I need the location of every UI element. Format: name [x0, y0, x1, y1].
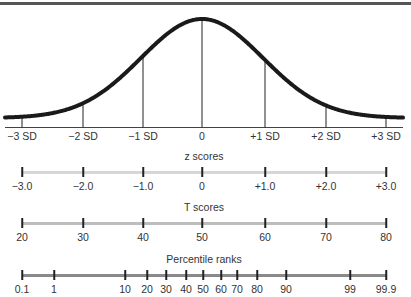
scale-tick: [124, 270, 126, 280]
scale-bar: [22, 171, 386, 174]
scale-label: 70: [320, 231, 332, 243]
scale-tick: [285, 270, 287, 280]
scale-label: −1.0: [133, 180, 154, 192]
scale-label: 60: [259, 231, 271, 243]
sd-label: +1 SD: [250, 130, 279, 142]
scale-label: 99.9: [376, 283, 396, 295]
scale-tick: [385, 218, 387, 228]
scale-title: T scores: [184, 201, 224, 213]
scale-tick: [264, 167, 266, 177]
scale-label: 0.1: [15, 283, 30, 295]
scale-label: 10: [119, 283, 131, 295]
scale-tick: [53, 270, 55, 280]
scale-label: 40: [180, 283, 192, 295]
scale-label: −2.0: [73, 180, 94, 192]
scale-tick: [142, 218, 144, 228]
scale-label: 20: [16, 231, 28, 243]
scale-title: z scores: [184, 150, 223, 162]
scale-label: −3.0: [12, 180, 33, 192]
scale-tick: [21, 218, 23, 228]
scale-title: Percentile ranks: [166, 253, 241, 265]
sd-label: −2 SD: [68, 130, 97, 142]
normal-curve: [0, 0, 411, 150]
scale-tick: [202, 270, 204, 280]
scale-label: 80: [380, 231, 392, 243]
scale-label: 30: [77, 231, 89, 243]
sd-label: 0: [199, 130, 205, 142]
scale-label: 50: [197, 283, 209, 295]
scale-tick: [142, 167, 144, 177]
scale-label: 99: [344, 283, 356, 295]
scale-tick: [201, 167, 203, 177]
scale-tick: [165, 270, 167, 280]
scale-label: 1: [51, 283, 57, 295]
scale-tick: [264, 218, 266, 228]
sd-label: +2 SD: [311, 130, 340, 142]
scale-label: 20: [141, 283, 153, 295]
scale-tick: [21, 270, 23, 280]
scale-label: 80: [251, 283, 263, 295]
scale-tick: [21, 167, 23, 177]
scale-tick: [185, 270, 187, 280]
scale-bar: [22, 274, 386, 277]
sd-label: −1 SD: [128, 130, 157, 142]
scale-tick: [325, 167, 327, 177]
scale-tick: [325, 218, 327, 228]
scale-tick: [256, 270, 258, 280]
scale-label: 50: [196, 231, 208, 243]
sd-label: −3 SD: [7, 130, 36, 142]
scale-label: 40: [137, 231, 149, 243]
scale-label: +3.0: [376, 180, 397, 192]
bell-curve: [5, 19, 403, 118]
scale-tick: [385, 167, 387, 177]
scale-tick: [385, 270, 387, 280]
scale-label: 70: [231, 283, 243, 295]
scale-tick: [236, 270, 238, 280]
scale-tick: [349, 270, 351, 280]
scale-label: 90: [280, 283, 292, 295]
scale-bar: [22, 222, 386, 225]
scale-tick: [82, 167, 84, 177]
scale-tick: [146, 270, 148, 280]
scale-label: 60: [215, 283, 227, 295]
scale-label: 30: [160, 283, 172, 295]
scale-tick: [82, 218, 84, 228]
scale-tick: [201, 218, 203, 228]
scale-label: +2.0: [316, 180, 337, 192]
scale-label: 0: [199, 180, 205, 192]
scale-tick: [220, 270, 222, 280]
sd-label: +3 SD: [371, 130, 400, 142]
scale-label: +1.0: [255, 180, 276, 192]
